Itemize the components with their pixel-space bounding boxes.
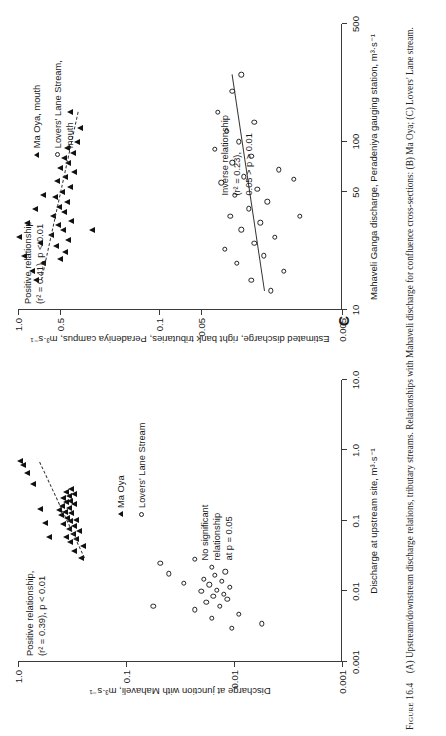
circle-marker-icon (136, 508, 144, 521)
data-point (54, 179, 60, 185)
y-tick-label: 0.1 (153, 318, 164, 331)
data-point (217, 603, 222, 608)
figure-page: Discharge at junction with Mahaveli, m³·… (0, 0, 446, 736)
x-tick (342, 141, 347, 142)
data-point (268, 288, 273, 293)
data-point (199, 589, 204, 594)
data-point (227, 585, 232, 590)
data-point (228, 214, 233, 219)
y-tick-label: 0.01 (229, 670, 240, 689)
data-point (57, 165, 63, 171)
figure-caption-text: (A) Upstream/downstream discharge relati… (405, 27, 415, 673)
data-point (212, 573, 217, 578)
data-point (192, 556, 197, 561)
data-point (291, 176, 296, 181)
data-point (60, 521, 66, 527)
x-tick-label: 500 (350, 16, 361, 32)
data-point (272, 235, 277, 240)
data-point (68, 510, 74, 516)
data-point (53, 243, 59, 249)
data-point (209, 565, 214, 570)
x-tick (342, 520, 347, 521)
data-point (234, 260, 239, 265)
figure-body: Discharge at junction with Mahaveli, m³·… (4, 18, 396, 718)
legend-label: Ma Oya (115, 475, 127, 508)
x-tick-label: 0.1 (350, 514, 361, 527)
data-point (52, 194, 58, 200)
y-tick (18, 310, 19, 315)
panel-c-lovers-lane: Estimated discharge, right bank tributar… (4, 18, 396, 366)
y-tick (342, 310, 343, 315)
legend-label: Ma Oya, mouth (31, 85, 43, 149)
y-axis-line-a (18, 661, 342, 662)
data-point (166, 571, 171, 576)
data-point (181, 581, 186, 586)
legend-item[interactable]: Ma Oya (115, 423, 127, 522)
x-tick-label: 50 (350, 187, 361, 198)
y-axis-line-c (18, 309, 342, 310)
y-tick (18, 662, 19, 667)
x-axis-title-c: Mahaveli Ganga discharge, Peradeniya gau… (368, 34, 380, 300)
data-point (221, 591, 226, 596)
data-point (46, 534, 52, 540)
data-point (67, 184, 73, 190)
figure-caption: Figure 16.4 (A) Upstream/downstream disc… (404, 14, 444, 730)
legend-label: Lovers' Lane Stream, mouth (52, 60, 76, 148)
data-point (212, 147, 217, 152)
legend-item[interactable]: Lovers' Lane Stream (136, 423, 148, 522)
data-point (158, 561, 163, 566)
data-point (215, 109, 220, 114)
data-point (55, 222, 61, 228)
y-tick-label: 0.05 (196, 318, 207, 337)
data-point (201, 576, 206, 581)
data-point (236, 611, 241, 616)
regression-line (39, 461, 85, 558)
data-point (223, 569, 228, 574)
data-point (259, 621, 264, 626)
data-point (229, 626, 234, 631)
triangle-marker-icon (115, 508, 123, 521)
y-axis-title-a: Discharge at junction with Mahaveli, m³·… (89, 686, 270, 697)
panel-letter-c: C (336, 316, 352, 326)
data-point (63, 534, 69, 540)
positive-relationship-note: Positive relationship, (r² = 0.39), p < … (24, 571, 48, 656)
legend-item[interactable]: Ma Oya, mouth (31, 60, 43, 161)
x-axis-title-a: Discharge at upstream site, m³·s⁻¹ (368, 448, 380, 593)
data-point (68, 218, 74, 224)
y-tick-label: 0.5 (55, 318, 66, 331)
plot-area-c: Estimated discharge, right bank tributar… (18, 24, 342, 310)
data-point (68, 486, 74, 492)
data-point (17, 458, 23, 464)
data-point (297, 214, 302, 219)
data-point (255, 187, 260, 192)
data-point (61, 209, 67, 215)
x-axis-line-a (341, 380, 342, 662)
legend-item[interactable]: Lovers' Lane Stream, mouth (52, 60, 76, 161)
x-axis-line-c (341, 24, 342, 310)
data-point (249, 278, 254, 283)
data-point (206, 582, 211, 587)
y-tick (126, 662, 127, 667)
data-point (24, 470, 30, 476)
data-point (211, 594, 216, 599)
data-point (281, 269, 286, 274)
legend: Ma OyaLovers' Lane Stream (115, 423, 157, 522)
y-axis-title-c: Estimated discharge, right bank tributar… (30, 334, 329, 345)
data-point (40, 192, 46, 198)
x-tick (342, 191, 347, 192)
y-tick-label: 0.001 (337, 670, 348, 694)
data-point (65, 237, 71, 243)
data-point (73, 517, 79, 523)
x-tick-label: 10.0 (350, 371, 361, 390)
positive-relationship-note: Positive relationship (r² = 0.41), p < 0… (22, 221, 46, 304)
inverse-relationship-note: Inverse relationship (r² = 0.23), 0.05 >… (219, 115, 255, 196)
data-point (89, 227, 95, 233)
plot-area-a: Discharge at junction with Mahaveli, m³·… (18, 380, 342, 662)
data-point (32, 206, 38, 212)
figure-number: Figure 16.4 (405, 683, 415, 730)
data-point (37, 506, 43, 512)
data-point (261, 253, 266, 258)
data-point (222, 246, 227, 251)
no-significant-relationship-note: No significant relationship at p = 0.05 (199, 505, 235, 561)
data-point (30, 481, 36, 487)
